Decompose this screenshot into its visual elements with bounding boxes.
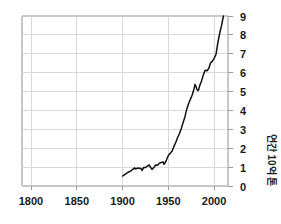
- ytick-label-9: 9: [240, 11, 246, 23]
- ytick-label-3: 3: [240, 124, 246, 136]
- ytick-label-6: 6: [240, 67, 246, 79]
- xtick-label-1950: 1950: [156, 195, 180, 207]
- y-axis-title: 연간 10억 톤: [266, 134, 278, 187]
- ytick-label-4: 4: [240, 105, 247, 117]
- ytick-label-1: 1: [240, 162, 246, 174]
- xtick-label-1900: 1900: [110, 195, 134, 207]
- plot-area: [22, 16, 228, 186]
- ytick-label-8: 8: [240, 29, 246, 41]
- chart-figure: 9 8 7 6 5 4 3 2 1 0 1800 1850 1900 1950 …: [0, 0, 281, 224]
- ytick-label-0: 0: [240, 181, 246, 193]
- xtick-label-1800: 1800: [19, 195, 43, 207]
- ytick-label-7: 7: [240, 48, 246, 60]
- xtick-label-1850: 1850: [65, 195, 89, 207]
- chart-canvas: 9 8 7 6 5 4 3 2 1 0 1800 1850 1900 1950 …: [0, 0, 281, 224]
- xtick-label-2000: 2000: [202, 195, 226, 207]
- ytick-label-5: 5: [240, 86, 246, 98]
- ytick-label-2: 2: [240, 143, 246, 155]
